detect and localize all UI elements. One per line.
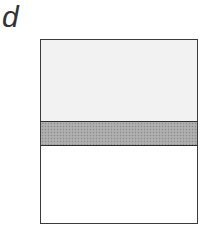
middle-layer-stippled <box>41 121 197 146</box>
bottom-layer <box>41 146 197 223</box>
layered-box <box>40 39 198 224</box>
panel-label: d <box>2 0 19 34</box>
top-layer <box>41 40 197 121</box>
